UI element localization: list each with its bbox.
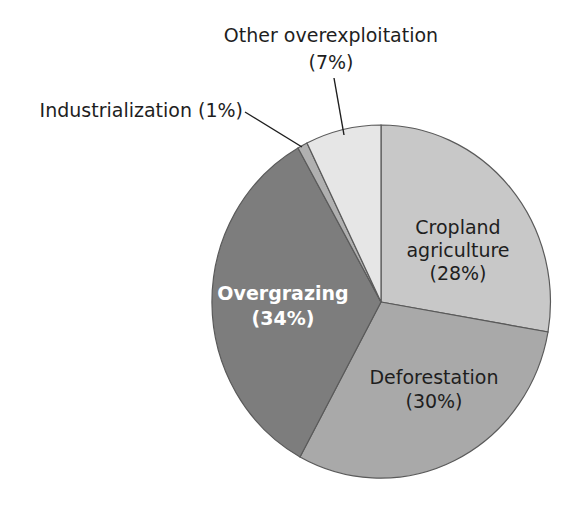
label-other-name: Other overexploitation: [224, 24, 438, 46]
label-deforestation-value: (30%): [405, 390, 462, 412]
label-cropland-line2: agriculture: [406, 239, 509, 261]
label-other-value: (7%): [309, 51, 354, 73]
leader-line-industrialization: [245, 112, 302, 147]
label-cropland-value: (28%): [429, 262, 486, 284]
label-deforestation-name: Deforestation: [369, 366, 498, 388]
label-overgrazing-value: (34%): [252, 307, 315, 329]
label-overgrazing-name: Overgrazing: [217, 282, 348, 304]
label-cropland-line1: Cropland: [415, 216, 500, 238]
leader-line-other: [334, 78, 344, 135]
pie-chart: Other overexploitation (7%) Industrializ…: [0, 0, 583, 510]
label-industrialization: Industrialization (1%): [40, 99, 243, 121]
